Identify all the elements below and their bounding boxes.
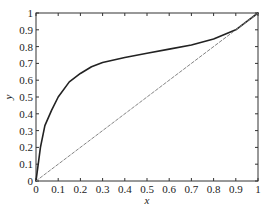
y-tick-label: 0.3	[19, 125, 33, 137]
x-tick-label: 0.9	[229, 183, 243, 195]
y-tick-label: 1	[28, 7, 34, 19]
y-tick-label: 0.7	[19, 57, 33, 69]
data-series	[36, 13, 258, 181]
diagonal-reference-line	[36, 13, 258, 181]
y-tick-label: 0.4	[19, 108, 33, 120]
x-tick-label: 0	[33, 183, 39, 195]
x-tick-label: 0.4	[118, 183, 132, 195]
x-tick-label: 0.6	[162, 183, 176, 195]
x-tick-label: 0.3	[96, 183, 110, 195]
x-axis-label: x	[144, 194, 150, 206]
chart: 00.10.20.30.40.50.60.70.80.91 00.10.20.3…	[0, 0, 268, 209]
y-tick-label: 0.5	[19, 91, 33, 103]
y-tick-label: 0.1	[19, 158, 33, 170]
x-tick-label: 0.7	[185, 183, 199, 195]
x-tick-label: 1	[255, 183, 261, 195]
x-tick-label: 0.8	[207, 183, 221, 195]
x-tick-label: 0.2	[74, 183, 88, 195]
x-tick-label: 0.1	[51, 183, 65, 195]
y-tick-labels: 00.10.20.30.40.50.60.70.80.91	[19, 7, 33, 187]
y-tick-label: 0.9	[19, 24, 33, 36]
y-axis-label: y	[2, 94, 14, 100]
y-tick-label: 0	[28, 175, 34, 187]
y-tick-label: 0.2	[19, 141, 33, 153]
y-tick-label: 0.8	[19, 41, 33, 53]
y-tick-label: 0.6	[19, 74, 33, 86]
